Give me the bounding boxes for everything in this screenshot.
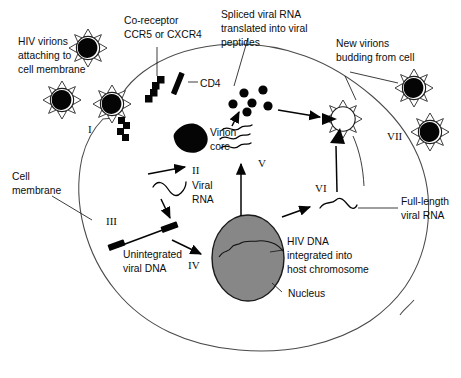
step-marker-iii: III [106,215,117,227]
label-nucleus: Nucleus [288,288,325,299]
label-spliced-line1: Spliced viral RNA [221,9,301,20]
step-marker-i: I [88,123,92,135]
label-spliced-line3: peptides [221,37,260,48]
virion-budded-2 [411,113,449,151]
label-spliced-line2: translated into viral [221,23,307,34]
virion-attaching [93,85,131,123]
diagram-canvas: HIV virions attaching to cell membrane C… [0,0,461,378]
hiv-replication-diagram: HIV virions attaching to cell membrane C… [0,0,461,378]
label-viral-rna-line2: RNA [192,194,214,205]
leader-new-virions-2 [350,72,398,83]
label-cell-membrane-line1: Cell [12,171,30,182]
step-marker-iv: IV [188,259,200,271]
label-unintegrated-line1: Unintegrated [123,249,182,260]
virion-free-2 [43,81,81,119]
label-virion-core-line1: Virion [210,127,236,138]
label-hiv-dna-line1: HIV DNA [287,236,329,247]
label-coreceptor-line1: Co-receptor [124,15,179,26]
label-unintegrated-line2: viral DNA [123,263,167,274]
step-marker-vii: VII [387,130,403,142]
membrane-jog-right [400,300,414,315]
label-hiv-virions-line3: cell membrane [18,64,86,75]
label-new-virions-line1: New virions [336,38,389,49]
step-marker-vi: VI [315,182,327,194]
cell-membrane-outline [79,44,429,351]
label-virion-core-line2: core [210,141,230,152]
label-cell-membrane-line2: membrane [12,185,61,196]
nucleus-shape [212,215,284,301]
label-viral-rna-line1: Viral [192,180,212,191]
step-marker-ii: II [192,164,200,176]
virion-budded-1 [395,69,433,107]
step-marker-v: V [258,157,266,169]
label-hiv-virions-line2: attaching to [18,50,72,61]
label-hiv-dna-line3: host chromosome [287,264,369,275]
label-full-length-line2: viral RNA [401,210,445,221]
label-cd4: CD4 [200,78,221,89]
label-hiv-virions-line1: HIV virions [18,36,68,47]
virion-free-1 [69,29,107,67]
label-coreceptor-line2: CCR5 or CXCR4 [124,29,202,40]
label-new-virions-line2: budding from cell [336,52,414,63]
arrow-fullrna-to-budding [336,146,337,192]
label-hiv-dna-line2: integrated into [287,250,353,261]
label-full-length-line1: Full-length [401,196,449,207]
